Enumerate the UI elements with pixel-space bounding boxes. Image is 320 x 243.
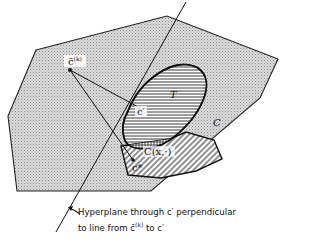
label-c-star: c* [132, 162, 143, 173]
label-c-prime: c′ [137, 106, 146, 117]
point-cbar-k [68, 68, 72, 72]
label-c: C [213, 117, 221, 128]
annotation-line-1: Hyperplane through c′ perpendicular [78, 206, 236, 218]
label-cone: C(x,·) [144, 146, 172, 157]
annotation-line-2: to line from c̄(k) to c′ [78, 219, 164, 234]
